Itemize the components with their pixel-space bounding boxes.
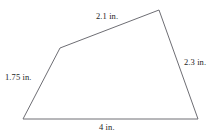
side-label-bottom: 4 in.: [99, 123, 115, 132]
side-label-top: 2.1 in.: [96, 12, 118, 21]
geometry-figure: 2.1 in. 2.3 in. 4 in. 1.75 in.: [0, 0, 219, 136]
quadrilateral-path: [23, 10, 198, 119]
side-label-right: 2.3 in.: [184, 58, 206, 67]
side-label-left: 1.75 in.: [5, 73, 32, 82]
